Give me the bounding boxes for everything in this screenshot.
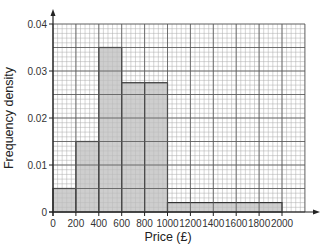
x-tick-label: 1800 bbox=[248, 218, 271, 229]
y-tick-label: 0.01 bbox=[28, 160, 48, 171]
x-tick-label: 2000 bbox=[271, 218, 294, 229]
y-tick-label: 0.03 bbox=[28, 66, 48, 77]
histogram-bar bbox=[168, 203, 283, 212]
y-tick-label: 0 bbox=[41, 207, 47, 218]
x-tick-label: 1400 bbox=[202, 218, 225, 229]
x-tick-label: 1200 bbox=[179, 218, 202, 229]
x-tick-label: 200 bbox=[68, 218, 85, 229]
y-axis-ticks: 00.010.020.030.04 bbox=[28, 19, 53, 218]
histogram-bar bbox=[99, 48, 122, 213]
x-tick-label: 600 bbox=[113, 218, 130, 229]
histogram-bar bbox=[53, 189, 76, 213]
y-tick-label: 0.04 bbox=[28, 19, 48, 30]
x-axis-ticks: 0200400600800100012001400160018002000 bbox=[50, 212, 293, 229]
x-tick-label: 800 bbox=[136, 218, 153, 229]
histogram-bar bbox=[122, 83, 145, 212]
histogram-bar bbox=[76, 142, 99, 213]
x-tick-label: 1000 bbox=[156, 218, 179, 229]
x-tick-label: 400 bbox=[90, 218, 107, 229]
x-tick-label: 0 bbox=[50, 218, 56, 229]
x-tick-label: 1600 bbox=[225, 218, 248, 229]
histogram-bar bbox=[145, 83, 168, 212]
x-axis-label: Price (£) bbox=[144, 230, 191, 244]
y-tick-label: 0.02 bbox=[28, 113, 48, 124]
histogram-chart: 00.010.020.030.04 0200400600800100012001… bbox=[0, 0, 325, 247]
y-axis-label: Frequency density bbox=[2, 66, 16, 169]
